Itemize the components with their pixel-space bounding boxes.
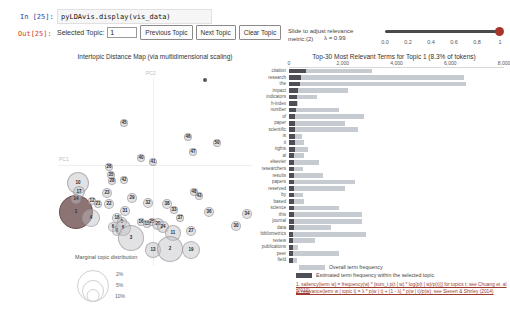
relevance-slider[interactable] xyxy=(385,30,500,33)
size-legend-label-5pct: 5% xyxy=(116,282,123,288)
term-label[interactable]: review xyxy=(237,238,286,244)
bar-row-rights[interactable]: rights xyxy=(289,146,504,152)
topic-bubble-22[interactable]: 22 xyxy=(104,199,114,209)
bar-row-the[interactable]: the xyxy=(289,81,504,87)
topic-bubble-label: 32 xyxy=(145,201,150,206)
bar-row-peer[interactable]: peer xyxy=(289,251,504,257)
topic-bubble-28[interactable]: 28 xyxy=(108,177,116,185)
term-label[interactable]: scientific xyxy=(237,127,286,133)
term-label[interactable]: journal xyxy=(237,218,286,224)
bar-row-publications[interactable]: publications xyxy=(289,244,504,250)
term-label[interactable]: it xyxy=(237,140,286,146)
topic-bubble-43[interactable]: 43 xyxy=(195,192,203,200)
bar-row-scientific[interactable]: scientific xyxy=(289,127,504,133)
topic-bubble-21[interactable]: 21 xyxy=(94,200,102,208)
slider-tick-label: 0.6 xyxy=(450,39,458,45)
bar-row-journal[interactable]: journal xyxy=(289,218,504,224)
term-label[interactable]: this xyxy=(237,212,286,218)
term-label[interactable]: indicators xyxy=(237,94,286,100)
topic-bubble-33[interactable]: 33 xyxy=(170,206,178,214)
term-label[interactable]: the xyxy=(237,81,286,87)
relevance-slider-handle[interactable] xyxy=(495,27,504,36)
topic-bubble-4[interactable]: 4 xyxy=(82,209,100,227)
bar-row-citation[interactable]: citation xyxy=(289,68,504,74)
term-label[interactable]: peer xyxy=(237,251,286,257)
term-label[interactable]: field xyxy=(237,257,286,263)
term-label[interactable]: bibliometrics xyxy=(237,231,286,237)
term-label[interactable]: paper xyxy=(237,120,286,126)
bar-row-it[interactable]: it xyxy=(289,140,504,146)
term-label[interactable]: reserved xyxy=(237,186,286,192)
topic-frequency-bar xyxy=(289,238,293,243)
pc2-axis-label: PC2 xyxy=(146,70,156,76)
bar-row-reserved[interactable]: reserved xyxy=(289,186,504,192)
bar-row-paper[interactable]: paper xyxy=(289,120,504,126)
bar-row-elsevier[interactable]: elsevier xyxy=(289,159,504,165)
term-label[interactable]: researchers xyxy=(237,166,286,172)
bar-row-al[interactable]: al xyxy=(289,153,504,159)
topic-bubble-29[interactable]: 29 xyxy=(127,193,137,203)
bar-row-this[interactable]: this xyxy=(289,212,504,218)
term-label[interactable]: impact xyxy=(237,88,286,94)
previous-topic-button[interactable]: Previous Topic xyxy=(140,25,192,40)
topic-bubble-31[interactable]: 31 xyxy=(120,206,130,216)
term-label[interactable]: papers xyxy=(237,179,286,185)
topic-bubble-26[interactable]: 26 xyxy=(105,163,113,171)
bar-row-number[interactable]: number xyxy=(289,107,504,113)
term-label[interactable]: number xyxy=(237,107,286,113)
bar-row-research[interactable]: research xyxy=(289,75,504,81)
topic-bubble-46[interactable]: 46 xyxy=(184,133,192,141)
bar-row-based[interactable]: based xyxy=(289,199,504,205)
term-label[interactable]: of xyxy=(237,114,286,120)
topic-bubble-45[interactable]: 45 xyxy=(120,119,128,127)
topic-bubble-42[interactable]: 42 xyxy=(120,176,128,184)
term-label[interactable]: al xyxy=(237,153,286,159)
bar-row-field[interactable]: field xyxy=(289,257,504,263)
term-label[interactable]: h-index xyxy=(237,101,286,107)
term-label[interactable]: based xyxy=(237,199,286,205)
bar-row-papers[interactable]: papers xyxy=(289,179,504,185)
topic-bubble-19[interactable]: 19 xyxy=(182,241,200,259)
bar-row-indicators[interactable]: indicators xyxy=(289,94,504,100)
topic-bubble-40[interactable]: 40 xyxy=(137,154,145,162)
topic-bubble-label: 1 xyxy=(75,210,78,215)
bar-row-science[interactable]: science xyxy=(289,205,504,211)
term-label[interactable]: is xyxy=(237,133,286,139)
topic-bubble-50[interactable]: 50 xyxy=(213,139,221,147)
topic-bubble-3[interactable]: 3 xyxy=(118,225,144,251)
bar-row-review[interactable]: review xyxy=(289,238,504,244)
bar-row-results[interactable]: results xyxy=(289,173,504,179)
bar-row-data[interactable]: data xyxy=(289,225,504,231)
bar-row-h-index[interactable]: h-index xyxy=(289,101,504,107)
topic-frequency-bar xyxy=(289,127,295,132)
topic-bubble[interactable] xyxy=(203,78,207,82)
term-label[interactable]: research xyxy=(237,75,286,81)
term-label[interactable]: science xyxy=(237,205,286,211)
bar-row-researchers[interactable]: researchers xyxy=(289,166,504,172)
topic-bubble-37[interactable]: 37 xyxy=(176,214,184,222)
topic-bubble-47[interactable]: 47 xyxy=(189,148,197,156)
bar-row-bibliometrics[interactable]: bibliometrics xyxy=(289,231,504,237)
topic-bubble-14[interactable]: 14 xyxy=(71,194,81,204)
code-cell[interactable]: pyLDAvis.display(vis_data) xyxy=(57,9,212,24)
next-topic-button[interactable]: Next Topic xyxy=(196,25,236,40)
bar-row-by[interactable]: by xyxy=(289,192,504,198)
bar-row-impact[interactable]: impact xyxy=(289,88,504,94)
clear-topic-button[interactable]: Clear Topic xyxy=(239,25,281,40)
topic-bubble-23[interactable]: 23 xyxy=(102,188,112,198)
term-label[interactable]: data xyxy=(237,225,286,231)
term-label[interactable]: publications xyxy=(237,244,286,250)
selected-topic-input[interactable] xyxy=(107,27,137,38)
topic-bubble-2[interactable]: 2 xyxy=(157,236,183,262)
topic-bubble-36[interactable]: 36 xyxy=(204,207,214,217)
topic-bubble-27[interactable]: 27 xyxy=(186,226,196,236)
term-label[interactable]: by xyxy=(237,192,286,198)
term-label[interactable]: citation xyxy=(237,68,286,74)
term-label[interactable]: results xyxy=(237,173,286,179)
bar-row-is[interactable]: is xyxy=(289,133,504,139)
topic-bubble-41[interactable]: 41 xyxy=(149,158,157,166)
bar-row-of[interactable]: of xyxy=(289,114,504,120)
topic-bubble-32[interactable]: 32 xyxy=(143,198,153,208)
term-label[interactable]: rights xyxy=(237,146,286,152)
term-label[interactable]: elsevier xyxy=(237,159,286,165)
